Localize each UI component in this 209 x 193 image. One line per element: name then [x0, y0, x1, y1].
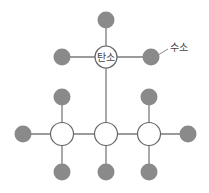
hydrogen-atom — [141, 164, 158, 181]
carbon-label: 탄소 — [97, 52, 115, 63]
hydrogen-atom — [54, 49, 71, 66]
hydrogen-atom — [15, 126, 32, 143]
hydrogen-atom — [141, 89, 158, 106]
hydrogen-atom — [98, 164, 115, 181]
hydrogen-atom — [54, 89, 71, 106]
hydrogen-atom — [180, 126, 197, 143]
hydrogen-atom — [143, 49, 160, 66]
hydrogen-atom — [98, 12, 115, 29]
carbon-atom — [95, 123, 118, 146]
hydrogen-atom — [54, 164, 71, 181]
carbon-atom — [51, 123, 74, 146]
bonds — [23, 20, 188, 172]
molecule-diagram: 탄소 수소 — [0, 0, 209, 193]
carbon-atom — [138, 123, 161, 146]
hydrogen-label: 수소 — [170, 42, 188, 53]
